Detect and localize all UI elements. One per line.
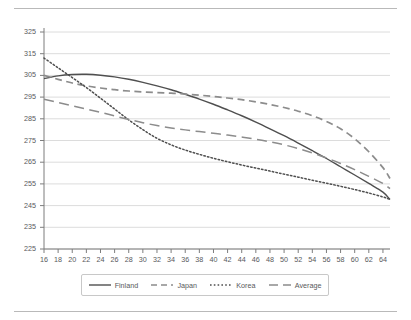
legend-item-average[interactable]: Average <box>269 281 322 290</box>
y-tick-label: 265 <box>10 157 36 166</box>
dotted-line-swatch <box>210 281 232 289</box>
y-tick-label: 255 <box>10 179 36 188</box>
legend-label: Finland <box>115 281 139 290</box>
legend-label: Japan <box>177 281 197 290</box>
y-tick-label: 235 <box>10 222 36 231</box>
y-tick-label: 245 <box>10 201 36 210</box>
y-tick-label: 285 <box>10 114 36 123</box>
y-tick-label: 295 <box>10 92 36 101</box>
legend-label: Korea <box>236 281 255 290</box>
legend-item-korea[interactable]: Korea <box>210 281 255 290</box>
y-tick-marks-group <box>40 32 44 249</box>
series-line-average <box>44 99 390 188</box>
gridlines-group <box>44 32 390 249</box>
series-line-korea <box>44 58 390 199</box>
x-tick-label: 64 <box>375 255 391 264</box>
data-series-group <box>44 58 390 199</box>
chart-legend: Finland Japan Korea Average <box>81 274 329 296</box>
y-tick-label: 225 <box>10 244 36 253</box>
longdash-line-swatch <box>269 281 291 289</box>
bottom-divider-rule <box>14 311 397 312</box>
solid-line-swatch <box>89 281 111 289</box>
plot-area: 225235245255265275285295305315325 161820… <box>0 14 411 266</box>
y-tick-label: 315 <box>10 49 36 58</box>
dashed-line-swatch <box>151 281 173 289</box>
y-tick-label: 325 <box>10 27 36 36</box>
y-tick-label: 275 <box>10 136 36 145</box>
top-divider-rule <box>14 8 397 9</box>
legend-item-japan[interactable]: Japan <box>151 281 197 290</box>
y-tick-label: 305 <box>10 70 36 79</box>
line-chart-svg <box>0 14 411 266</box>
legend-item-finland[interactable]: Finland <box>89 281 139 290</box>
chart-figure: 225235245255265275285295305315325 161820… <box>0 0 411 320</box>
x-tick-marks-group <box>44 249 383 253</box>
series-line-finland <box>44 74 390 199</box>
legend-label: Average <box>295 281 322 290</box>
